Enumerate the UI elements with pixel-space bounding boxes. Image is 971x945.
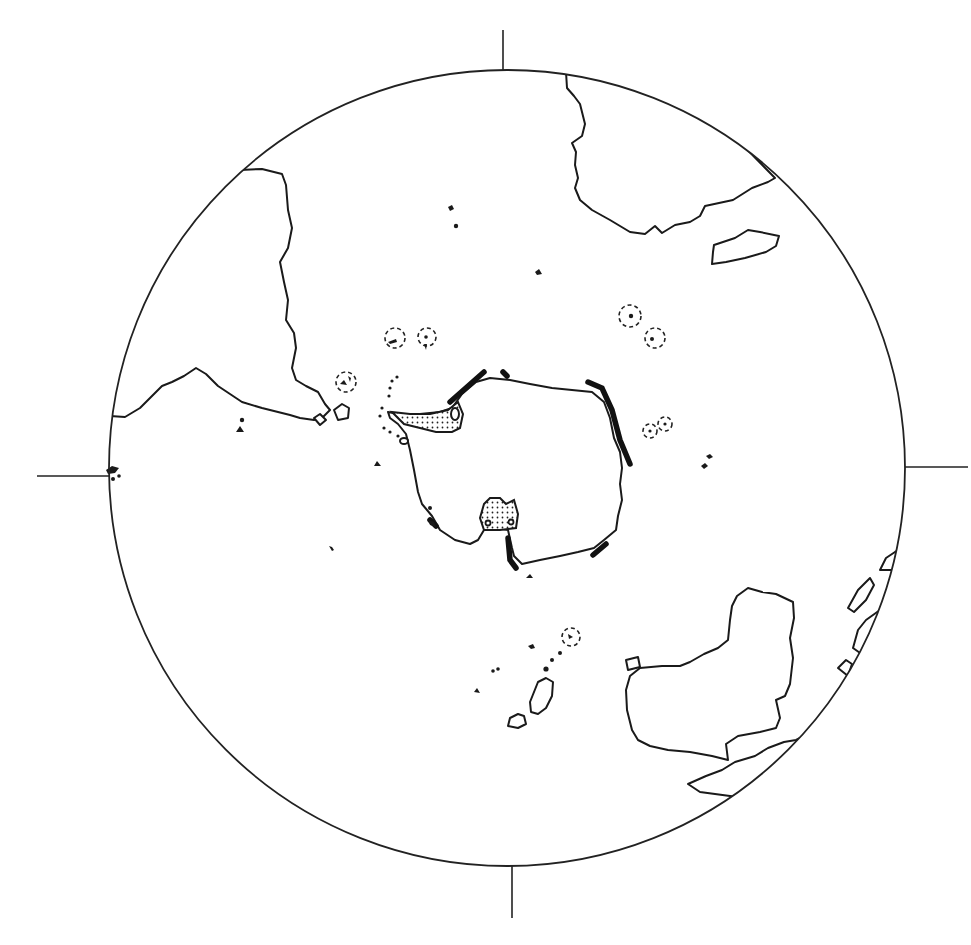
island-dot: [382, 426, 385, 429]
island-dot: [629, 314, 633, 318]
island-dot: [388, 430, 391, 433]
island-dot: [424, 335, 428, 339]
island-dot: [550, 658, 554, 662]
island-dot: [380, 406, 383, 409]
ross-marker-2: [509, 520, 514, 525]
island-dot: [340, 376, 351, 385]
landmass-new-zealand-south: [508, 714, 526, 728]
landmass-islet-west-australia: [626, 657, 640, 670]
landmass-madagascar: [712, 230, 779, 264]
island-dot: [701, 463, 708, 469]
landmass-east-fragment-1: [848, 578, 874, 612]
island-dot: [387, 394, 390, 397]
ice-shelf-hole: [451, 408, 459, 420]
island-dot: [388, 339, 397, 344]
island-dot: [236, 426, 244, 432]
polar-map: [0, 0, 971, 945]
island-dot: [374, 461, 381, 466]
island-dot: [424, 344, 427, 350]
island-dot: [454, 224, 458, 228]
landmass-new-zealand-north: [530, 678, 553, 714]
bar-peninsula-tip: [503, 372, 507, 376]
dashed-island-circle: [385, 328, 405, 348]
landmass-antarctica: [388, 378, 622, 564]
island-dot: [117, 474, 121, 478]
island-dot: [395, 375, 398, 378]
island-dot: [496, 667, 500, 671]
landmass-falklands: [334, 404, 349, 420]
landmass-africa: [566, 40, 775, 234]
island-dot: [396, 434, 399, 437]
island-dot: [448, 205, 454, 211]
island-dot: [568, 634, 573, 639]
island-dot: [388, 386, 391, 389]
landmass-australia: [626, 588, 794, 760]
island-dot: [558, 651, 562, 655]
island-dot: [528, 644, 535, 649]
island-dot: [663, 422, 666, 425]
island-dot: [390, 379, 393, 382]
dashed-island-circle: [336, 372, 356, 392]
island-dot: [535, 269, 542, 275]
landmass-south-america: [100, 160, 330, 420]
island-dot: [648, 429, 651, 432]
landmass-east-fragment-3: [853, 600, 906, 680]
island-dot: [474, 688, 480, 693]
island-dot: [111, 477, 115, 481]
dashed-island-circle: [645, 328, 665, 348]
ross-marker-1: [486, 521, 491, 526]
island-dot: [329, 546, 334, 551]
island-dot: [428, 506, 432, 510]
island-dot: [706, 454, 713, 459]
island-dot: [543, 666, 548, 671]
island-dot: [650, 337, 654, 341]
landmass-east-fragment-4: [838, 660, 852, 676]
island-outline: [400, 438, 408, 444]
island-dot: [491, 669, 495, 673]
island-dot: [106, 466, 119, 474]
island-dot: [240, 418, 244, 422]
island-dot: [378, 414, 381, 417]
island-dot: [526, 574, 533, 578]
